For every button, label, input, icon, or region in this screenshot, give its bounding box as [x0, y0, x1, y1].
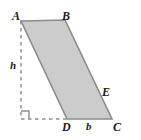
- geometry-figure: A B C D E h b: [0, 0, 141, 140]
- parallelogram-shape: [21, 20, 112, 119]
- base-measure-label: b: [86, 121, 92, 132]
- height-measure-label: h: [10, 60, 16, 71]
- vertex-label-c: C: [113, 121, 121, 133]
- vertex-label-e: E: [102, 86, 110, 98]
- vertex-label-d: D: [62, 121, 71, 133]
- vertex-label-a: A: [12, 10, 20, 22]
- right-angle-marker-icon: [21, 111, 29, 119]
- parallelogram-svg: [0, 0, 141, 140]
- vertex-label-b: B: [62, 10, 70, 22]
